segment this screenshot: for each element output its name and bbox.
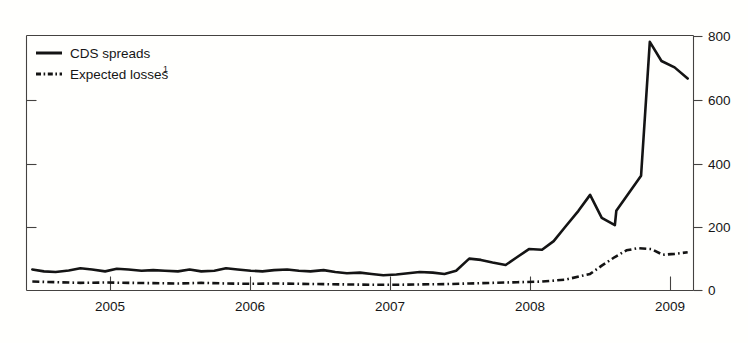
ytick-label-400: 400 (708, 157, 731, 172)
xtick-label-2005: 2005 (95, 299, 125, 314)
xtick-label-2006: 2006 (235, 299, 265, 314)
legend-footnote-marker: 1 (163, 64, 168, 74)
cds-spreads-line-chart: 800 600 400 200 0 2005 2006 2007 2008 20… (0, 0, 748, 343)
xtick-label-2009: 2009 (655, 299, 685, 314)
xtick-label-2008: 2008 (515, 299, 545, 314)
ytick-label-600: 600 (708, 93, 731, 108)
ytick-label-200: 200 (708, 220, 731, 235)
ytick-label-800: 800 (708, 29, 731, 44)
legend-label-cds-spreads: CDS spreads (70, 46, 151, 61)
ytick-label-0: 0 (708, 283, 716, 298)
legend-label-expected-losses: Expected losses (70, 67, 169, 82)
xtick-label-2007: 2007 (375, 299, 405, 314)
chart-container: 800 600 400 200 0 2005 2006 2007 2008 20… (0, 0, 748, 343)
